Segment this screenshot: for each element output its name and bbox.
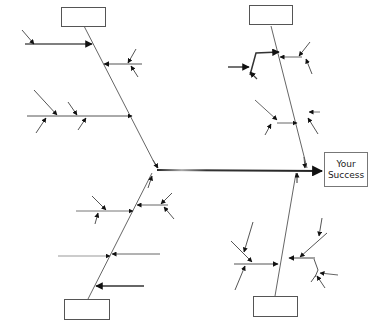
sub-cause-arrow bbox=[68, 102, 77, 115]
sub-cause-arrow bbox=[78, 118, 86, 130]
sub-cause-arrow bbox=[231, 241, 252, 262]
bone-top-right bbox=[271, 26, 307, 168]
effect-box: Your Success bbox=[324, 152, 368, 187]
fishbone-diagram bbox=[0, 0, 376, 322]
sub-cause-arrow bbox=[265, 124, 271, 135]
sub-cause-arrow bbox=[314, 259, 318, 277]
sub-cause-arrow bbox=[22, 30, 34, 44]
sub-cause-arrow bbox=[306, 59, 312, 74]
category-box-bottom-right bbox=[253, 296, 298, 317]
effect-label-line2: Success bbox=[328, 170, 364, 181]
effect-label-line1: Your bbox=[336, 159, 355, 170]
sub-cause-arrow bbox=[308, 118, 318, 134]
sub-cause-arrow bbox=[92, 196, 106, 210]
main-spine-arrow bbox=[157, 170, 322, 171]
sub-cause-arrow bbox=[128, 49, 136, 63]
sub-cause-arrow bbox=[250, 72, 257, 79]
sub-cause-arrow bbox=[235, 266, 245, 290]
bone-bottom-left bbox=[88, 173, 152, 299]
cause-arrow bbox=[250, 52, 279, 75]
sub-cause-arrow bbox=[317, 276, 325, 288]
sub-cause-arrow bbox=[131, 66, 138, 77]
sub-cause-arrow bbox=[95, 213, 98, 224]
sub-cause-arrow bbox=[311, 275, 316, 282]
category-box-bottom-left bbox=[64, 299, 110, 320]
category-box-top-right bbox=[249, 5, 293, 25]
sub-cause-arrow bbox=[34, 90, 57, 115]
sub-cause-arrow bbox=[244, 222, 253, 252]
sub-cause-arrow bbox=[255, 100, 277, 120]
sub-cause-arrow bbox=[153, 160, 158, 168]
sub-cause-arrow bbox=[164, 207, 174, 219]
bone-top-left bbox=[84, 26, 157, 168]
sub-cause-arrow bbox=[320, 273, 338, 275]
sub-cause-arrow bbox=[36, 118, 46, 133]
sub-cause-arrow bbox=[299, 42, 310, 56]
sub-cause-arrow bbox=[161, 193, 172, 204]
bone-bottom-right bbox=[275, 173, 296, 296]
category-box-top-left bbox=[61, 7, 106, 27]
sub-cause-arrow bbox=[319, 218, 322, 236]
sub-cause-arrow bbox=[300, 233, 327, 257]
